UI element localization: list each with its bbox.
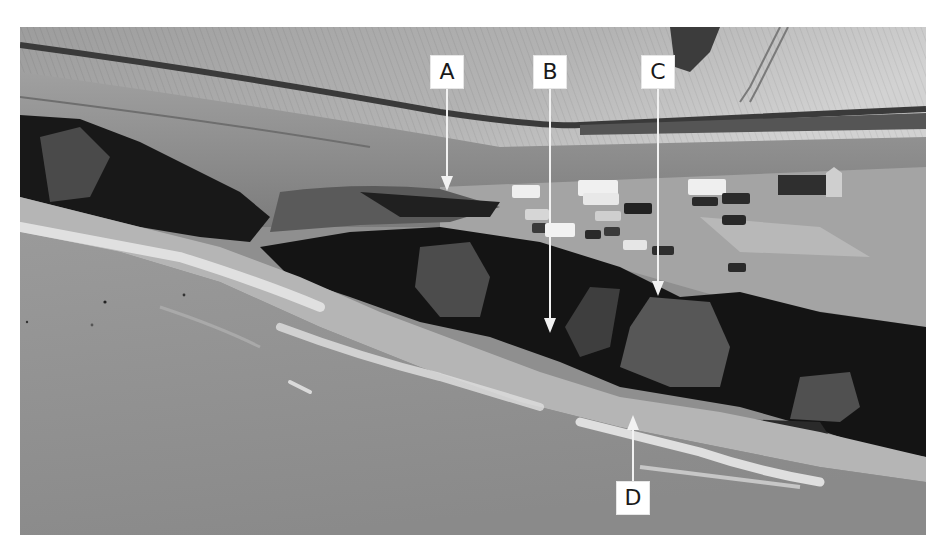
label-a-text: A bbox=[439, 61, 454, 83]
label-c-text: C bbox=[650, 61, 665, 83]
label-b-text: B bbox=[542, 61, 557, 83]
label-c: C bbox=[641, 55, 675, 89]
label-d: D bbox=[616, 481, 650, 515]
label-a: A bbox=[430, 55, 464, 89]
label-d-text: D bbox=[625, 487, 642, 509]
landscape-scene bbox=[20, 27, 926, 535]
label-b: B bbox=[533, 55, 567, 89]
coastal-aerial-photo bbox=[20, 27, 926, 535]
